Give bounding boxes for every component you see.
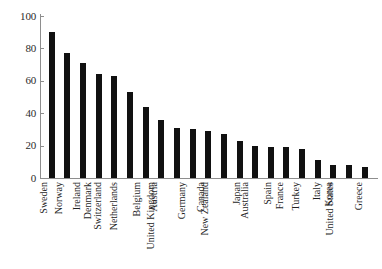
bar-slot (60, 16, 76, 178)
x-axis-label-slot: Greece (357, 180, 373, 269)
bar (205, 131, 211, 178)
bar (158, 120, 164, 178)
bar (143, 107, 149, 178)
bar (64, 53, 70, 178)
y-axis-ticks: 020406080100 (0, 0, 40, 269)
bar-slot (169, 16, 185, 178)
x-axis-label: Denmark (80, 182, 90, 219)
bar (268, 147, 274, 178)
x-axis-label: United States (322, 182, 332, 236)
bar-slot (200, 16, 216, 178)
bar-slot (44, 16, 60, 178)
x-axis-label: Norway (51, 182, 61, 214)
bar (80, 63, 86, 178)
bar-slot (279, 16, 295, 178)
bar (315, 160, 321, 178)
bar (346, 165, 352, 178)
bar (362, 167, 368, 178)
bar-slot (341, 16, 357, 178)
bar-slot (216, 16, 232, 178)
bar (283, 147, 289, 178)
bar (96, 74, 102, 178)
bar-slot (263, 16, 279, 178)
bar (174, 128, 180, 178)
x-axis-label: Belgium (128, 182, 138, 216)
bar (111, 76, 117, 178)
bar-slot (232, 16, 248, 178)
bar-slot (75, 16, 91, 178)
bar (190, 129, 196, 178)
bar-slot (107, 16, 123, 178)
bar (299, 149, 305, 178)
y-axis-tick-label: 80 (25, 43, 40, 54)
bar (49, 32, 55, 178)
x-axis-label: Ireland (69, 182, 79, 210)
y-axis-tick-label: 100 (20, 11, 40, 22)
x-axis-label: Italy (309, 182, 319, 200)
x-axis-label: Netherlands (106, 182, 116, 230)
x-axis-label: United Kingdom (143, 182, 153, 250)
x-axis-label: Australia (237, 182, 247, 219)
bar-slot (326, 16, 342, 178)
y-axis-tick-label: 60 (25, 75, 40, 86)
bar-slot (185, 16, 201, 178)
bar-series (40, 16, 378, 178)
y-axis-tick-label: 20 (25, 140, 40, 151)
x-axis-label-slot: Turkey (294, 180, 310, 269)
x-axis-line (40, 178, 378, 179)
bar (221, 134, 227, 178)
x-axis-label: France (273, 182, 283, 209)
bar-slot (310, 16, 326, 178)
bar (252, 146, 258, 178)
bar (127, 92, 133, 178)
bar (237, 141, 243, 178)
x-axis-label: Germany (174, 182, 184, 219)
x-axis-label: Spain (259, 182, 269, 205)
bar-slot (357, 16, 373, 178)
bar-chart: 020406080100 SwedenNorwayIrelandDenmarkS… (0, 0, 382, 269)
bar-slot (138, 16, 154, 178)
x-axis-labels: SwedenNorwayIrelandDenmarkSwitzerlandNet… (40, 180, 378, 269)
bar-slot (247, 16, 263, 178)
bar-slot (122, 16, 138, 178)
x-axis-label: Turkey (288, 182, 298, 211)
bar (330, 165, 336, 178)
x-axis-label: Greece (351, 182, 361, 210)
y-axis-tick-mark (40, 178, 44, 179)
x-axis-label: Switzerland (90, 182, 100, 230)
y-axis-tick-label: 40 (25, 108, 40, 119)
bar-slot (153, 16, 169, 178)
x-axis-label: Sweden (36, 182, 46, 214)
x-axis-label: New Zealand (197, 182, 207, 236)
bar-slot (294, 16, 310, 178)
bar-slot (91, 16, 107, 178)
